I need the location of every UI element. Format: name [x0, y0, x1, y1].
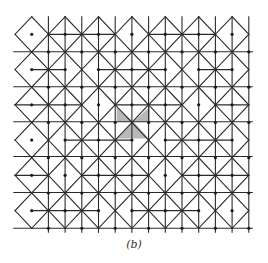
- diagonal-edge: [115, 175, 132, 193]
- lattice-node: [47, 121, 50, 124]
- diagonal-edge: [199, 158, 216, 176]
- diagonal-edge: [15, 140, 32, 158]
- lattice-node: [114, 86, 117, 89]
- diagonal-edge: [149, 87, 166, 105]
- diagonal-edge: [232, 34, 249, 52]
- diagonal-edge: [82, 175, 99, 193]
- diagonal-edge: [132, 140, 149, 158]
- shaded-triangle: [133, 107, 150, 122]
- lattice-node: [80, 86, 83, 89]
- lattice-node: [247, 191, 250, 194]
- lattice-node: [147, 156, 150, 159]
- lattice-node: [114, 191, 117, 194]
- diagonal-edge: [48, 193, 65, 211]
- diagonal-edge: [82, 17, 99, 35]
- lattice-node: [214, 191, 217, 194]
- diagonal-edge: [15, 158, 32, 176]
- diagonal-edge: [65, 211, 82, 229]
- lattice-node: [130, 33, 133, 36]
- diagonal-edge: [132, 87, 149, 105]
- diagonal-edge: [115, 193, 132, 211]
- diagonal-edge: [15, 211, 32, 229]
- diagonal-edge: [99, 140, 116, 158]
- lattice-node: [64, 103, 67, 106]
- diagonal-edge: [149, 140, 166, 158]
- diagonal-edge: [48, 17, 65, 35]
- diagonal-edge: [215, 87, 232, 105]
- diagonal-edge: [199, 140, 216, 158]
- lattice-node: [30, 209, 33, 212]
- diagonal-edge: [232, 122, 249, 140]
- diagonal-edge: [232, 211, 249, 229]
- diagonal-edge: [48, 122, 65, 140]
- diagonal-edge: [165, 34, 182, 52]
- diagonal-edge: [15, 122, 32, 140]
- diagonal-edge: [32, 211, 49, 229]
- diagonal-edge: [215, 193, 232, 211]
- lattice-node: [247, 156, 250, 159]
- diagonal-edge: [215, 122, 232, 140]
- lattice-node: [247, 86, 250, 89]
- lattice-node: [30, 174, 33, 177]
- diagonal-edge: [65, 105, 82, 123]
- diagonal-edge: [199, 193, 216, 211]
- diagonal-edge: [82, 34, 99, 52]
- diagonal-edge: [48, 105, 65, 123]
- diagonal-edge: [15, 87, 32, 105]
- diagonal-edge: [82, 211, 99, 229]
- diagonal-edge: [99, 52, 116, 70]
- lattice-node: [114, 121, 117, 124]
- diagonal-edge: [115, 211, 132, 229]
- lattice-node: [180, 86, 183, 89]
- diagonal-edge: [132, 52, 149, 70]
- lattice-node: [231, 33, 234, 36]
- diagonal-edge: [65, 34, 82, 52]
- tiling-figure: [0, 0, 268, 263]
- diagonal-edge: [182, 52, 199, 70]
- lattice-node: [197, 174, 200, 177]
- lattice-node: [214, 227, 217, 230]
- diagonal-edge: [232, 87, 249, 105]
- diagonal-edge: [15, 105, 32, 123]
- lattice-node: [180, 227, 183, 230]
- diagonal-edge: [149, 70, 166, 88]
- diagonal-edge: [215, 34, 232, 52]
- diagonal-edge: [215, 211, 232, 229]
- diagonal-edge: [82, 193, 99, 211]
- diagonal-edge: [99, 17, 116, 35]
- lattice-node: [147, 191, 150, 194]
- lattice-node: [247, 227, 250, 230]
- diagonal-edge: [82, 87, 99, 105]
- diagonal-edge: [232, 193, 249, 211]
- diagonal-edge: [232, 17, 249, 35]
- lattice-node: [164, 103, 167, 106]
- diagonal-edge: [132, 70, 149, 88]
- lattice-node: [197, 68, 200, 71]
- diagonal-edge: [165, 193, 182, 211]
- diagonal-edge: [82, 122, 99, 140]
- diagonal-edge: [99, 34, 116, 52]
- lattice-node: [97, 139, 100, 142]
- lattice-node: [231, 209, 234, 212]
- lattice-node: [97, 33, 100, 36]
- diagonal-edge: [215, 158, 232, 176]
- diagonal-edge: [32, 122, 49, 140]
- lattice-node: [247, 50, 250, 53]
- diagonal-edge: [182, 87, 199, 105]
- lattice-node: [147, 227, 150, 230]
- figure-caption: (b): [0, 238, 268, 251]
- lattice-node: [47, 86, 50, 89]
- diagonal-edge: [15, 175, 32, 193]
- diagonal-edge: [82, 70, 99, 88]
- lattice-node: [80, 227, 83, 230]
- lattice-node: [114, 227, 117, 230]
- diagonal-edge: [115, 17, 132, 35]
- diagonal-edge: [132, 175, 149, 193]
- diagonal-edge: [232, 158, 249, 176]
- diagonal-edge: [32, 140, 49, 158]
- diagonal-edge: [199, 122, 216, 140]
- diagonal-edge: [115, 140, 132, 158]
- diagonal-edge: [48, 158, 65, 176]
- diagonal-edge: [182, 122, 199, 140]
- diagonal-edge: [232, 175, 249, 193]
